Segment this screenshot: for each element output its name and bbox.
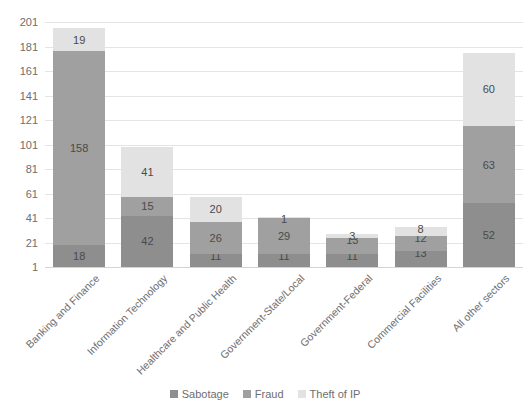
bar-value-label: 29 (258, 230, 310, 241)
bar-value-label: 3 (326, 231, 378, 242)
bar-segment-sabotage[interactable]: 13 (395, 251, 447, 267)
bar-value-label: 20 (190, 204, 242, 215)
bar-segment-theft-of-ip[interactable]: 19 (53, 28, 105, 51)
legend-swatch-icon (243, 390, 251, 398)
x-axis-baseline (45, 267, 523, 268)
bar-value-label: 60 (463, 84, 515, 95)
bar-segment-fraud[interactable]: 63 (463, 126, 515, 203)
legend-label: Sabotage (182, 388, 229, 400)
bar-segment-theft-of-ip[interactable]: 41 (121, 147, 173, 197)
bar-group[interactable]: 13128 (395, 0, 447, 267)
bar-group[interactable]: 112620 (190, 0, 242, 267)
y-axis-tick-label: 81 (0, 164, 38, 175)
bar-segment-sabotage[interactable]: 52 (463, 203, 515, 267)
bar-segment-theft-of-ip[interactable]: 8 (395, 227, 447, 237)
chart-legend: SabotageFraudTheft of IP (0, 388, 530, 400)
bar-segment-sabotage[interactable]: 11 (190, 254, 242, 267)
y-axis-tick-label: 141 (0, 91, 38, 102)
bar-value-label: 63 (463, 159, 515, 170)
legend-item[interactable]: Sabotage (170, 388, 229, 400)
bar-value-label: 15 (121, 201, 173, 212)
bar-value-label: 41 (121, 167, 173, 178)
bar-segment-sabotage[interactable]: 11 (258, 254, 310, 267)
bar-value-label: 19 (53, 34, 105, 45)
bar-segment-fraud[interactable]: 158 (53, 51, 105, 245)
bar-segment-theft-of-ip[interactable]: 3 (326, 234, 378, 238)
y-axis-tick-label: 61 (0, 189, 38, 200)
y-axis-tick-label: 201 (0, 17, 38, 28)
bar-segment-theft-of-ip[interactable]: 1 (258, 217, 310, 218)
y-axis-tick-label: 1 (0, 262, 38, 273)
y-axis-tick-label: 101 (0, 140, 38, 151)
bar-value-label: 52 (463, 230, 515, 241)
bar-group[interactable]: 1815819 (53, 0, 105, 267)
bar-segment-fraud[interactable]: 26 (190, 222, 242, 254)
bar-value-label: 8 (395, 224, 447, 235)
bar-segment-fraud[interactable]: 15 (121, 197, 173, 215)
legend-swatch-icon (298, 390, 306, 398)
bar-group[interactable]: 421541 (121, 0, 173, 267)
legend-label: Theft of IP (310, 388, 361, 400)
legend-item[interactable]: Theft of IP (298, 388, 361, 400)
y-axis-tick-label: 121 (0, 115, 38, 126)
y-axis-tick-label: 41 (0, 213, 38, 224)
y-axis-tick-label: 21 (0, 238, 38, 249)
bar-value-label: 42 (121, 236, 173, 247)
legend-swatch-icon (170, 390, 178, 398)
legend-item[interactable]: Fraud (243, 388, 284, 400)
bar-value-label: 158 (53, 143, 105, 154)
bar-group[interactable]: 11291 (258, 0, 310, 267)
bar-segment-sabotage[interactable]: 11 (326, 254, 378, 267)
bar-segment-fraud[interactable]: 12 (395, 236, 447, 251)
bar-value-label: 26 (190, 232, 242, 243)
legend-label: Fraud (255, 388, 284, 400)
bar-segment-theft-of-ip[interactable]: 60 (463, 53, 515, 127)
bar-segment-sabotage[interactable]: 18 (53, 245, 105, 267)
y-axis-tick-label: 161 (0, 66, 38, 77)
bar-segment-sabotage[interactable]: 42 (121, 216, 173, 267)
bar-value-label: 18 (53, 250, 105, 261)
bar-group[interactable]: 11133 (326, 0, 378, 267)
bar-segment-theft-of-ip[interactable]: 20 (190, 197, 242, 222)
bar-group[interactable]: 526360 (463, 0, 515, 267)
bar-value-label: 1 (258, 214, 310, 225)
y-axis-tick-label: 181 (0, 42, 38, 53)
stacked-bar-chart: 121416181101121141161181201 Banking and … (0, 0, 530, 418)
